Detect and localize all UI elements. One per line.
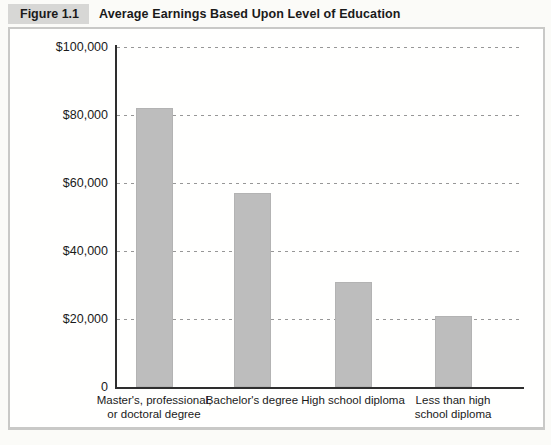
figure-number-label: Figure 1.1	[8, 4, 89, 24]
x-axis-label: Less than high school diploma	[387, 393, 519, 421]
figure-header: Figure 1.1 Average Earnings Based Upon L…	[8, 4, 545, 24]
bar	[234, 193, 271, 387]
y-tick-label: $40,000	[10, 243, 108, 259]
y-axis-line	[115, 45, 117, 389]
x-axis-line	[115, 387, 524, 389]
gridline	[117, 183, 522, 184]
bar	[435, 316, 472, 387]
y-tick-label: $100,000	[10, 39, 108, 55]
bar-chart: $100,000$80,000$60,000$40,000$20,0000 Ma…	[8, 27, 545, 430]
gridline	[117, 251, 522, 252]
figure-title: Average Earnings Based Upon Level of Edu…	[99, 7, 400, 21]
y-tick-label: $80,000	[10, 107, 108, 123]
gridline	[117, 47, 522, 48]
y-tick-label: $20,000	[10, 311, 108, 327]
bar	[335, 282, 372, 387]
gridline	[117, 115, 522, 116]
bar	[136, 108, 173, 387]
page: Figure 1.1 Average Earnings Based Upon L…	[0, 0, 551, 445]
y-tick-label: $60,000	[10, 175, 108, 191]
